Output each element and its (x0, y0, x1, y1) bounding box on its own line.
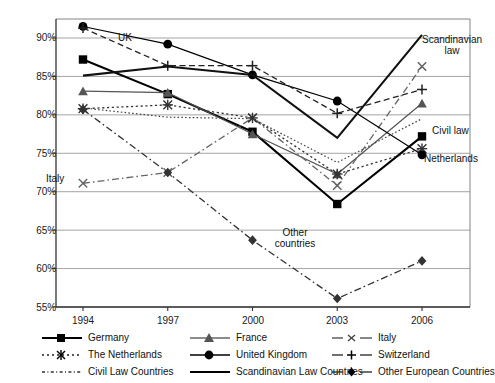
legend-label: Other European Countries (378, 365, 495, 379)
data-point-marker (418, 256, 427, 266)
legend-label: France (236, 331, 267, 345)
series-line-italy (83, 66, 422, 185)
annotation-netherlands: Netherlands (424, 153, 478, 164)
annotation-scandinavian-law: Scandinavian law (420, 34, 484, 56)
legend-label: United Kingdom (236, 348, 307, 362)
annotation-uk: UK (118, 32, 132, 43)
data-point-marker (333, 200, 341, 208)
legend-label: The Netherlands (88, 348, 162, 362)
data-point-marker (163, 40, 172, 49)
data-point-marker (418, 132, 426, 140)
data-point-marker (417, 99, 427, 108)
data-point-marker (333, 97, 342, 106)
switzerland-symbol (330, 348, 374, 362)
civil-law-symbol (40, 365, 84, 379)
data-point-marker (247, 113, 257, 123)
annotation-other-countries: Other countries (264, 227, 326, 249)
italy-symbol (330, 331, 374, 345)
legend-label: Civil Law Countries (88, 365, 174, 379)
legend-label: Italy (378, 331, 396, 345)
germany-symbol (40, 331, 84, 345)
data-point-marker (332, 108, 342, 118)
scandinavian-law-symbol (188, 365, 232, 379)
data-point-marker (248, 61, 258, 71)
data-point-marker (332, 169, 342, 179)
data-point-marker (333, 294, 342, 304)
chart-legend: Germany France Italy The Netherlands Uni… (0, 325, 492, 383)
data-point-marker (79, 55, 87, 63)
data-point-marker (248, 235, 257, 245)
legend-label: Germany (88, 331, 129, 345)
annotation-italy: Italy (46, 173, 64, 184)
annotation-civil-law: Civil law (432, 125, 469, 136)
data-point-marker (333, 181, 341, 189)
netherlands-symbol (40, 348, 84, 362)
data-point-marker (163, 100, 173, 110)
data-point-marker (417, 84, 427, 94)
united-kingdom-symbol (188, 348, 232, 362)
france-symbol (188, 331, 232, 345)
legend-label: Switzerland (378, 348, 430, 362)
other-european-symbol (330, 365, 374, 379)
data-point-marker (418, 62, 426, 70)
